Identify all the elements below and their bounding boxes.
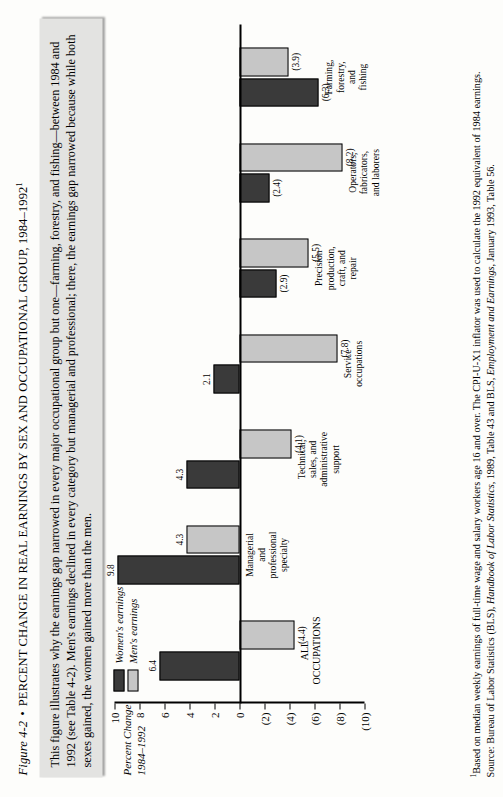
figure-title-text: PERCENT CHANGE IN REAL EARNINGS BY SEX A…: [15, 186, 29, 706]
y-axis-tick-label: (8): [333, 712, 345, 725]
bar-women: [239, 173, 269, 202]
category-label: Managerial and professional specialty: [243, 509, 288, 600]
chart-area: Percent Change 1984–1992 Women's earning…: [108, 18, 426, 777]
source-text-1: Bureau of Labor Statistics (BLS),: [484, 604, 495, 744]
y-axis-tick: [114, 703, 115, 709]
zero-axis-line: [239, 24, 241, 703]
value-axis-spine: [114, 701, 364, 703]
bar-men: [239, 620, 294, 649]
category-label: ALL OCCUPATIONS: [298, 605, 322, 696]
y-axis-tick: [239, 703, 240, 709]
figure-title: Figure 4-2•PERCENT CHANGE IN REAL EARNIN…: [14, 18, 30, 775]
figure-page: Figure 4-2•PERCENT CHANGE IN REAL EARNIN…: [0, 0, 503, 797]
category-label: Farming, forestry, and fishing: [322, 31, 367, 122]
y-axis-tick: [189, 703, 190, 709]
footnote-text: Based on median weekly earnings of full-…: [471, 71, 482, 773]
bar-men: [239, 238, 308, 267]
bar-women: [117, 555, 240, 584]
title-footnote-marker: 1: [14, 182, 23, 186]
bar-value-label: 4.3: [174, 468, 184, 480]
category-label: Technical, sales, and administrative sup…: [295, 413, 340, 504]
category-label: Precision production, craft, and repair: [312, 222, 357, 313]
source-line: Source: Bureau of Labor Statistics (BLS)…: [483, 16, 496, 777]
y-axis-tick: [339, 703, 340, 709]
bar-value-label: 2.1: [201, 373, 211, 385]
y-axis-tick-label: 0: [233, 712, 245, 718]
bar-value-label: (2.4): [271, 179, 281, 197]
y-axis-tick: [139, 703, 140, 709]
y-axis-tick: [214, 703, 215, 709]
y-axis-tick: [289, 703, 290, 709]
y-axis-tick-label: (6): [308, 712, 320, 725]
y-axis-tick: [264, 703, 265, 709]
y-axis-tick-label: (4): [283, 712, 295, 725]
source-text-2: , 1989, Table 43 and BLS,: [484, 375, 495, 484]
category-label: Operators, fabricators, and laborers: [346, 127, 380, 218]
bar-men: [186, 525, 240, 554]
y-axis-tick-label: (10): [358, 712, 370, 730]
bar-men: [239, 143, 342, 172]
rotated-page-container: Figure 4-2•PERCENT CHANGE IN REAL EARNIN…: [0, 0, 503, 797]
bar-value-label: 4.3: [174, 533, 184, 545]
bar-women: [213, 364, 239, 393]
bar-women: [239, 78, 318, 107]
y-axis-tick-label: 2: [208, 712, 220, 718]
y-axis-tick: [314, 703, 315, 709]
bar-value-label: (2.9): [278, 274, 288, 292]
bar-value-label: 9.8: [105, 564, 115, 576]
figure-description-box: This figure illustrates why the earnings…: [39, 18, 102, 777]
y-axis-tick: [364, 703, 365, 709]
y-axis-title-line1: Percent Change: [120, 704, 133, 775]
footnote-line: 1Based on median weekly earnings of full…: [468, 16, 483, 777]
figure-description-text: This figure illustrates why the earnings…: [47, 34, 93, 767]
bar-men: [239, 429, 290, 458]
figure-number: Figure 4-2: [15, 720, 29, 775]
bar-value-label: 6.4: [147, 659, 157, 671]
y-axis-tick-label: 10: [108, 712, 120, 723]
source-label: Source:: [484, 746, 495, 777]
source-italic-1: Handbook of Labor Statistics: [484, 484, 495, 604]
y-axis-tick: [164, 703, 165, 709]
bar-men: [239, 47, 288, 76]
source-italic-2: Employment and Earnings: [484, 266, 495, 375]
y-axis-tick-label: 4: [183, 712, 195, 718]
plot-region: 6.4(4.4)ALL OCCUPATIONS9.84.3Managerial …: [114, 24, 364, 703]
bar-women: [186, 460, 240, 489]
footnote-marker: 1: [468, 773, 477, 777]
bar-value-label: (3.9): [290, 52, 300, 70]
title-bullet: •: [15, 711, 29, 716]
y-axis-tick-label: (2): [258, 712, 270, 725]
bar-women: [159, 651, 239, 680]
category-label: Service occupations: [341, 318, 364, 409]
source-text-3: , January 1993, Table 56.: [484, 164, 495, 266]
footnotes: 1Based on median weekly earnings of full…: [468, 16, 496, 777]
bar-men: [239, 334, 337, 363]
y-axis-tick-label: 8: [133, 712, 145, 718]
y-axis-tick-label: 6: [158, 712, 170, 718]
bar-women: [239, 269, 275, 298]
